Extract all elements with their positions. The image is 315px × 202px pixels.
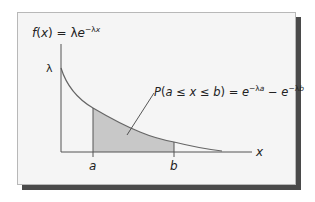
exponential-density-plot: f(x) = λe−λx λ x a b P(a ≤ x ≤ b) = e−λa… (0, 0, 315, 202)
y-tick-lambda: λ (46, 62, 53, 75)
bound-a-label: a (89, 159, 96, 173)
bound-b-label: b (170, 159, 178, 173)
annotation-leader-line (127, 93, 154, 135)
probability-label: P(a ≤ x ≤ b) = e−λa − e−λb (154, 84, 304, 99)
x-axis-label: x (255, 145, 264, 159)
function-label: f(x) = λe−λx (32, 25, 101, 40)
